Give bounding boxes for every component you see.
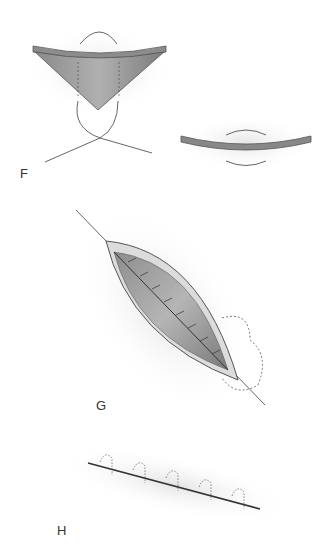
figure-g-wound: [39, 172, 291, 449]
figure-f-disc: [176, 115, 316, 171]
panel-label-g: G: [96, 398, 106, 413]
illustration-canvas: [0, 0, 335, 560]
panel-label-f: F: [20, 166, 28, 181]
panel-label-h: H: [57, 523, 66, 538]
figure-f-cone: [25, 25, 175, 162]
figure-h-incision: [46, 430, 303, 541]
